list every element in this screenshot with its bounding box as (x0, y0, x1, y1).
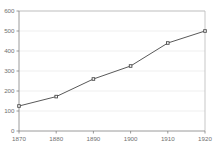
y-tick-label-300: 300 (4, 67, 15, 74)
y-tick-label-100: 100 (4, 107, 15, 114)
x-tick-label-1870: 1870 (12, 135, 26, 142)
y-tick-label-0: 0 (11, 127, 15, 134)
y-tick-label-400: 400 (4, 47, 15, 54)
chart-container: 0100200300400500600 18701880189019001910… (0, 0, 214, 154)
x-tick-label-1880: 1880 (49, 135, 63, 142)
x-tick-label-1920: 1920 (198, 135, 212, 142)
data-point-1900 (129, 65, 132, 68)
y-tick-label-200: 200 (4, 87, 15, 94)
data-point-1880 (55, 95, 58, 98)
x-tick-label-1900: 1900 (124, 135, 138, 142)
x-tick-label-1890: 1890 (87, 135, 101, 142)
x-tick-label-1910: 1910 (161, 135, 175, 142)
y-tick-label-500: 500 (4, 27, 15, 34)
y-tick-label-600: 600 (4, 7, 15, 14)
data-point-1890 (92, 78, 95, 81)
data-point-1920 (204, 30, 207, 33)
data-point-1870 (18, 105, 21, 108)
data-point-1910 (167, 42, 170, 45)
line-chart: 0100200300400500600 18701880189019001910… (0, 0, 214, 154)
